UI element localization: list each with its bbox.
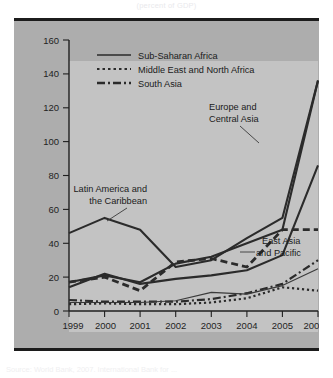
source-caption: Source: World Bank, 2007. International … [6, 364, 333, 377]
x-tick-label-2000: 2000 [95, 320, 116, 331]
line-chart: 160 140 120 100 80 60 40 20 0 1999 2000 … [14, 18, 319, 351]
y-tick-label-60: 60 [48, 204, 59, 215]
x-tick-label-2004: 2004 [236, 320, 257, 331]
y-tick-label-140: 140 [43, 68, 59, 79]
y-tick-label-0: 0 [54, 306, 59, 317]
legend-label-sub-saharan-africa: Sub-Saharan Africa [138, 51, 219, 61]
x-tick-label-2003: 2003 [201, 320, 222, 331]
y-tick-label-80: 80 [48, 170, 59, 181]
x-tick-label-2001: 2001 [130, 320, 151, 331]
chart-figure: (percent of GDP) 160 140 120 100 80 60 4… [0, 0, 333, 378]
x-tick-label-2002: 2002 [165, 320, 186, 331]
x-tick-label-2005: 2005 [272, 320, 293, 331]
annotation-europe-line2: Central Asia [209, 114, 259, 124]
y-axis-ticks [63, 40, 69, 311]
annotation-latin-america-line2: the Caribbean [89, 196, 147, 206]
y-tick-label-40: 40 [48, 238, 59, 249]
annotation-leader-line-europe [240, 126, 259, 143]
annotation-leader-line-latin-america [107, 208, 127, 221]
figure-top-title: (percent of GDP) [0, 0, 333, 11]
x-tick-label-1999: 1999 [62, 320, 83, 331]
annotation-latin-america-and-the-caribbean: Latin America and the Caribbean [73, 184, 147, 221]
chart-legend: Sub-Saharan Africa Middle East and North… [97, 51, 255, 89]
x-tick-label-2006: 2006 [303, 320, 319, 331]
annotation-latin-america-line1: Latin America and [73, 184, 147, 194]
annotation-east-asia-and-pacific: East Asia and Pacific [240, 236, 301, 258]
y-tick-label-100: 100 [43, 136, 59, 147]
annotation-east-asia-line2: and Pacific [256, 248, 301, 258]
annotation-east-asia-line1: East Asia [262, 236, 301, 246]
y-tick-label-20: 20 [48, 272, 59, 283]
y-tick-label-120: 120 [43, 102, 59, 113]
legend-label-middle-east-and-north-africa: Middle East and North Africa [138, 65, 255, 75]
annotation-europe-and-central-asia: Europe and Central Asia [209, 102, 259, 143]
y-tick-label-160: 160 [43, 35, 59, 46]
legend-label-south-asia: South Asia [138, 79, 183, 89]
annotation-europe-line1: Europe and [209, 102, 257, 112]
series-line-south-asia [69, 260, 318, 302]
x-axis-ticks [69, 311, 318, 317]
